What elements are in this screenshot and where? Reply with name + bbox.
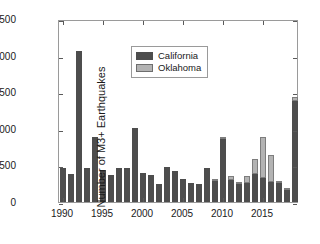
- y-tick-mark: [59, 131, 63, 132]
- y-tick-mark: [59, 204, 63, 205]
- x-tick-label: 2005: [162, 209, 202, 219]
- bar-segment-oklahoma: [292, 97, 298, 101]
- y-tick-label: 1500: [0, 88, 16, 98]
- bar-group: [164, 167, 170, 202]
- y-tick-mark-right: [293, 204, 297, 205]
- chart-legend: California Oklahoma: [131, 46, 208, 78]
- bar-segment-california: [276, 183, 282, 202]
- y-tick-mark-right: [293, 131, 297, 132]
- bar-group: [60, 168, 66, 202]
- bar-segment-california: [108, 175, 114, 202]
- bar-group: [260, 137, 266, 202]
- bar-group: [124, 168, 130, 202]
- bar-group: [76, 51, 82, 202]
- bar-group: [68, 174, 74, 202]
- bar-group: [244, 176, 250, 202]
- bar-group: [196, 184, 202, 202]
- x-tick-label: 2010: [202, 209, 242, 219]
- x-tick-mark: [223, 198, 224, 202]
- y-tick-mark-right: [293, 94, 297, 95]
- bar-segment-california: [244, 183, 250, 202]
- x-tick-mark-top: [223, 21, 224, 25]
- legend-label-oklahoma: Oklahoma: [158, 63, 201, 73]
- plot-area: California Oklahoma: [58, 20, 298, 203]
- y-tick-label: 2500: [0, 15, 16, 25]
- bar-group: [116, 168, 122, 202]
- legend-item-oklahoma: Oklahoma: [136, 62, 201, 74]
- x-tick-mark-top: [183, 21, 184, 25]
- bar-segment-oklahoma: [252, 159, 258, 174]
- bar-group: [188, 183, 194, 202]
- bar-segment-oklahoma: [276, 181, 282, 183]
- x-tick-label: 2015: [242, 209, 282, 219]
- bar-segment-california: [68, 174, 74, 202]
- x-tick-mark-top: [143, 21, 144, 25]
- bar-group: [204, 168, 210, 202]
- bar-segment-california: [60, 168, 66, 202]
- bar-segment-california: [236, 184, 242, 202]
- bar-segment-california: [84, 168, 90, 202]
- y-tick-label: 0: [10, 198, 16, 208]
- bar-segment-california: [284, 190, 290, 202]
- bar-segment-california: [76, 51, 82, 202]
- bar-segment-california: [292, 101, 298, 202]
- bar-segment-california: [204, 168, 210, 202]
- bar-segment-california: [188, 183, 194, 202]
- bar-segment-oklahoma: [228, 176, 234, 180]
- y-tick-mark-right: [293, 58, 297, 59]
- bar-segment-california: [164, 167, 170, 202]
- legend-swatch-california-icon: [136, 52, 153, 60]
- bar-segment-oklahoma: [284, 188, 290, 190]
- legend-label-california: California: [158, 51, 198, 61]
- bar-group: [236, 182, 242, 202]
- x-tick-label: 2000: [122, 209, 162, 219]
- bar-segment-california: [148, 175, 154, 202]
- bar-segment-oklahoma: [236, 182, 242, 184]
- bar-group: [252, 159, 258, 202]
- bar-segment-california: [220, 139, 226, 202]
- y-tick-mark: [59, 167, 63, 168]
- bar-group: [284, 189, 290, 202]
- y-tick-label: 2000: [0, 52, 16, 62]
- bar-group: [84, 168, 90, 202]
- y-tick-mark: [59, 94, 63, 95]
- bar-segment-california: [132, 128, 138, 202]
- x-tick-mark: [263, 198, 264, 202]
- bar-segment-california: [124, 168, 130, 202]
- bar-group: [132, 128, 138, 202]
- x-tick-mark-top: [63, 21, 64, 25]
- bar-segment-california: [228, 180, 234, 202]
- x-tick-mark: [183, 198, 184, 202]
- bar-segment-california: [156, 184, 162, 202]
- bar-group: [220, 137, 226, 203]
- bar-group: [108, 175, 114, 202]
- x-tick-mark-top: [103, 21, 104, 25]
- x-tick-label: 1990: [42, 209, 82, 219]
- y-tick-mark-right: [293, 167, 297, 168]
- bar-group: [148, 175, 154, 202]
- bar-segment-california: [212, 181, 218, 202]
- legend-swatch-oklahoma-icon: [136, 64, 153, 72]
- bar-segment-oklahoma: [212, 179, 218, 181]
- bar-segment-oklahoma: [260, 137, 266, 178]
- legend-item-california: California: [136, 50, 201, 62]
- bar-segment-california: [116, 168, 122, 202]
- bar-group: [276, 182, 282, 202]
- x-tick-mark-top: [263, 21, 264, 25]
- y-tick-label: 1000: [0, 125, 16, 135]
- bar-group: [212, 180, 218, 202]
- bar-group: [228, 176, 234, 202]
- y-tick-mark-right: [293, 21, 297, 22]
- y-axis-title: Number of M3+ Earthquakes: [95, 47, 107, 227]
- y-tick-mark: [59, 58, 63, 59]
- x-tick-mark: [63, 198, 64, 202]
- y-tick-label: 500: [0, 161, 16, 171]
- figure-canvas: California Oklahoma 05001000150020002500…: [0, 0, 320, 244]
- bar-segment-oklahoma: [244, 176, 250, 183]
- bar-segment-california: [196, 184, 202, 202]
- bar-group: [292, 97, 298, 202]
- x-tick-mark: [143, 198, 144, 202]
- bar-segment-california: [252, 174, 258, 202]
- bar-segment-california: [172, 171, 178, 202]
- bar-group: [156, 184, 162, 202]
